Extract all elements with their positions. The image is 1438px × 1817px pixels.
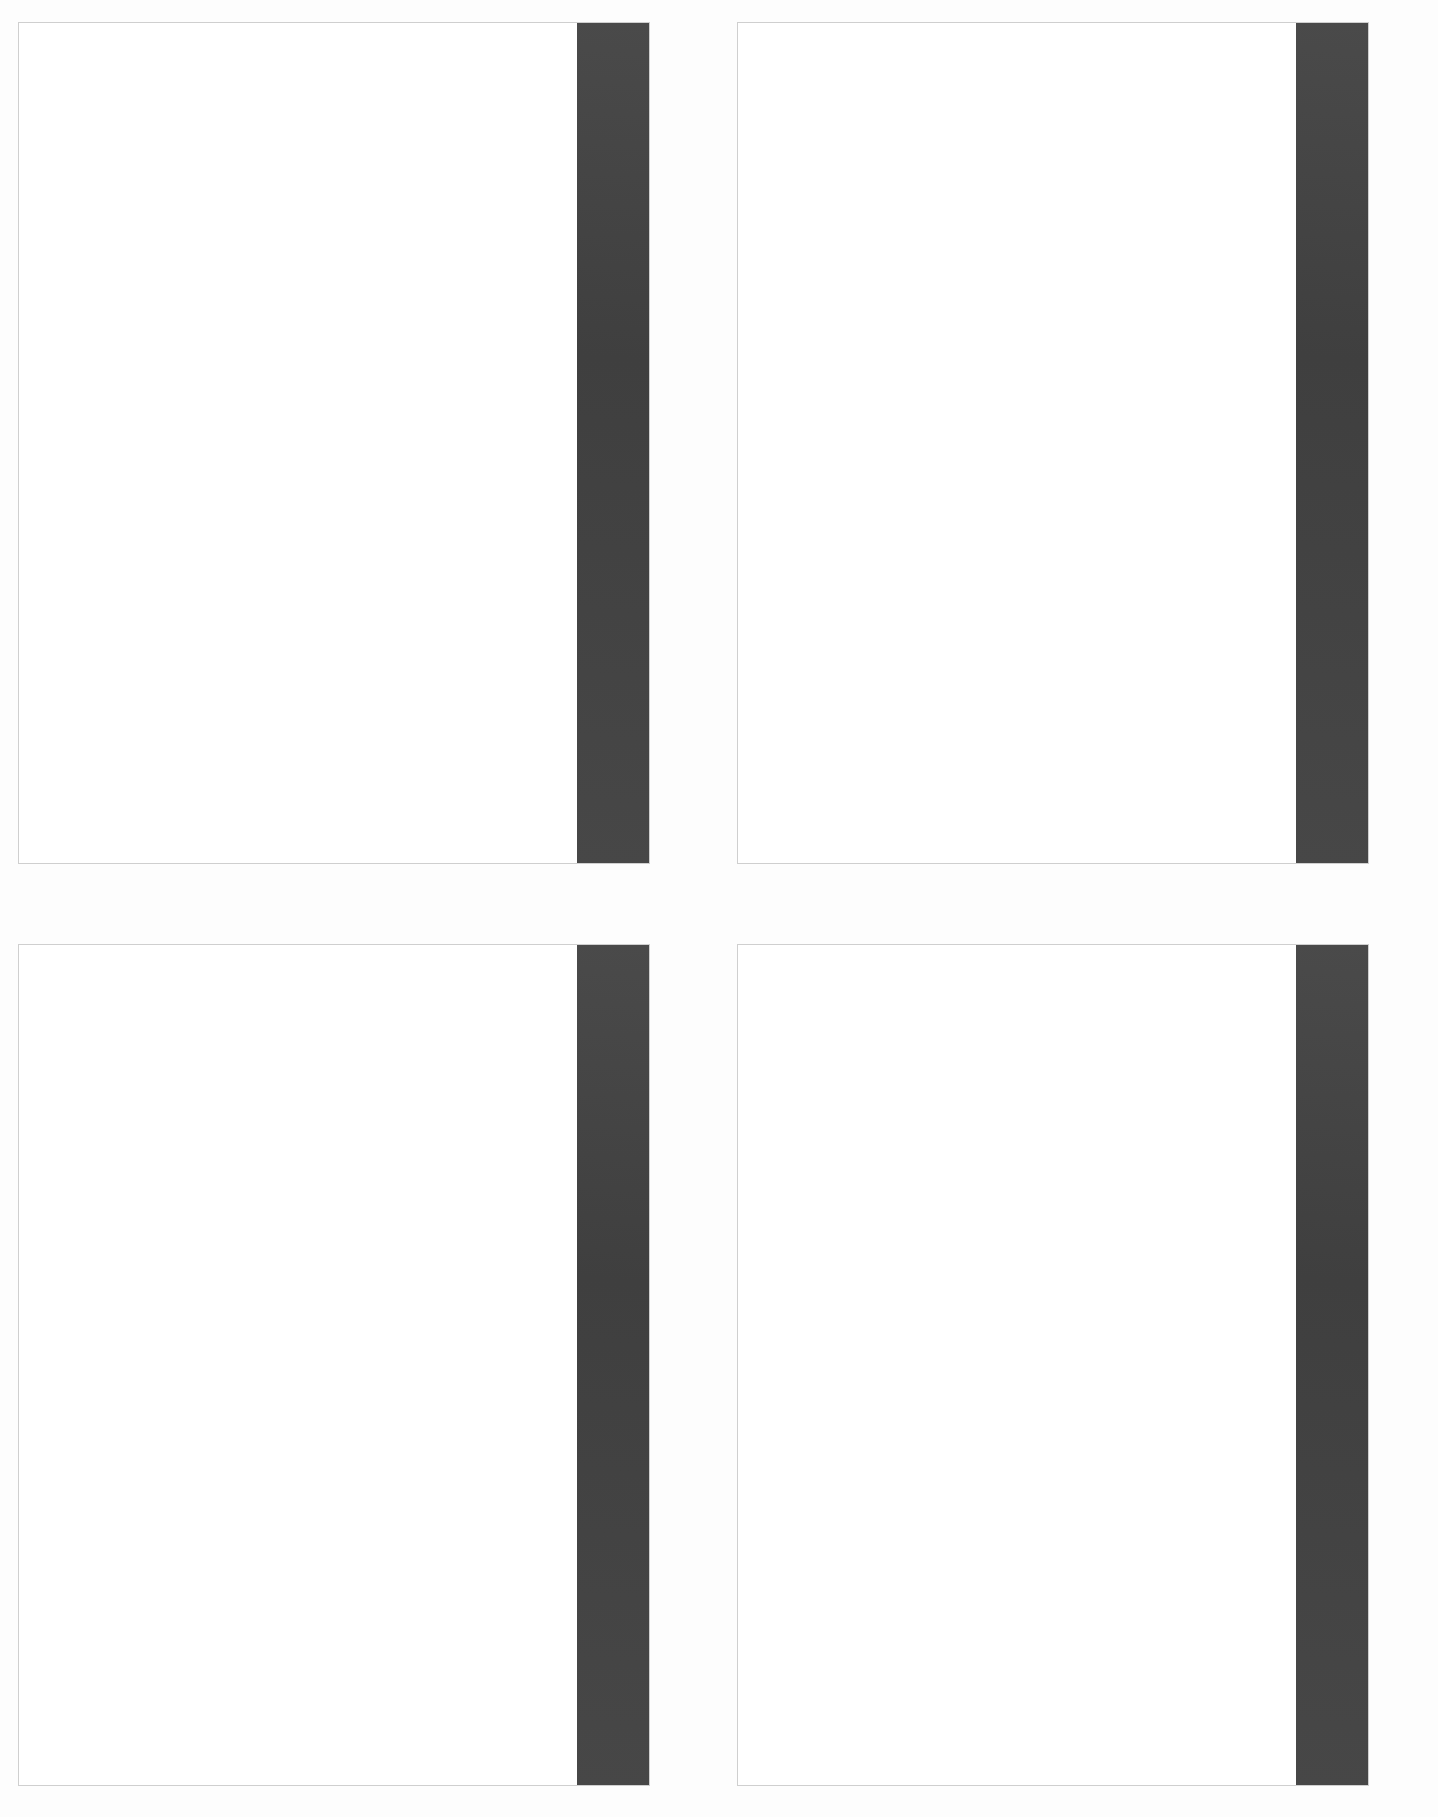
- math-content: [1226, 945, 1296, 1785]
- slide-title-bar: [1296, 23, 1368, 863]
- plot-svg: [47, 119, 567, 819]
- slide-body: [738, 23, 1296, 863]
- slide-title-bar: [577, 23, 649, 863]
- slide-slot-bottom-right: [737, 944, 1369, 1786]
- scan-header-ghost-text: [0, 0, 1438, 22]
- scatter-plot-regression-25: [47, 1041, 567, 1741]
- scatter-plot-regression-26: [47, 119, 567, 819]
- slide-title-bar: [577, 945, 649, 1785]
- scatter-plot-least-squares-28: [766, 119, 1286, 819]
- plot-svg: [766, 119, 1286, 819]
- slide-title-bar: [1296, 945, 1368, 1785]
- scanned-handout-page: [0, 0, 1438, 1817]
- slide-mathematically-27: [737, 944, 1369, 1786]
- slide-body: [738, 945, 1296, 1785]
- slide-slot-top-left: [18, 22, 650, 864]
- plot-svg: [47, 1041, 567, 1741]
- slide-body: [19, 945, 577, 1785]
- slide-least-squares-28: [737, 22, 1369, 864]
- slide-regression-line-26: [18, 22, 650, 864]
- slide-regression-line-25: [18, 944, 650, 1786]
- slide-body: [19, 23, 577, 863]
- slide-slot-bottom-left: [18, 944, 650, 1786]
- slide-slot-top-right: [737, 22, 1369, 864]
